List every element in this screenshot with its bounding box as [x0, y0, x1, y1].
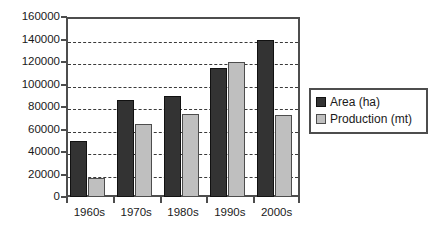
bar [135, 124, 152, 197]
chart-legend: Area (ha)Production (mt) [309, 88, 428, 134]
x-tick-mark [298, 197, 300, 203]
x-tick-mark [253, 197, 255, 203]
x-axis-ticks [66, 197, 300, 203]
y-tick-label: 160000 [0, 11, 60, 23]
y-tick-label: 120000 [0, 56, 60, 68]
bar [275, 115, 292, 197]
bar [210, 68, 227, 197]
x-tick-label: 2000s [261, 206, 292, 219]
legend-label: Area (ha) [330, 96, 380, 108]
x-tick-label: 1960s [74, 206, 105, 219]
y-axis: 0200004000060000800001000001200001400001… [0, 17, 60, 197]
y-tick-label: 60000 [0, 124, 60, 136]
y-tick-label: 80000 [0, 101, 60, 113]
legend-label: Production (mt) [330, 113, 412, 125]
y-tick-label: 40000 [0, 146, 60, 158]
bar-group [164, 17, 199, 197]
legend-swatch-icon [316, 97, 326, 107]
x-tick-label: 1970s [121, 206, 152, 219]
bar-group [210, 17, 245, 197]
legend-item: Production (mt) [316, 111, 421, 127]
bar [88, 178, 105, 197]
y-tick-label: 20000 [0, 169, 60, 181]
x-tick-mark [113, 197, 115, 203]
bar [228, 62, 245, 197]
bar-group [257, 17, 292, 197]
x-tick-mark [206, 197, 208, 203]
legend-item: Area (ha) [316, 94, 421, 110]
x-tick-label: 1980s [167, 206, 198, 219]
x-tick-mark [66, 197, 68, 203]
bar-group [70, 17, 105, 197]
bars-layer [66, 17, 300, 197]
x-tick-label: 1990s [214, 206, 245, 219]
bar-chart: 0200004000060000800001000001200001400001… [0, 0, 442, 247]
bar [182, 114, 199, 197]
bar [117, 100, 134, 197]
bar [257, 40, 274, 198]
y-tick-label: 140000 [0, 34, 60, 46]
legend-swatch-icon [316, 114, 326, 124]
x-tick-mark [160, 197, 162, 203]
bar [70, 141, 87, 197]
bar-group [117, 17, 152, 197]
y-tick-label: 0 [0, 191, 60, 203]
bar [164, 96, 181, 197]
y-tick-label: 100000 [0, 79, 60, 91]
x-axis: 1960s1970s1980s1990s2000s [66, 206, 300, 226]
